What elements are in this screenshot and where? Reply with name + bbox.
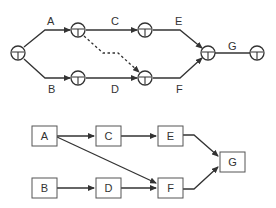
activity-node-d: D <box>96 178 121 198</box>
event-node-7 <box>250 46 264 60</box>
activity-arrow-e <box>153 30 202 48</box>
activity-label-d: D <box>111 83 119 95</box>
activity-node-label: F <box>167 182 174 194</box>
activity-label-c: C <box>111 15 119 27</box>
activity-label-f: F <box>176 83 183 95</box>
network-diagrams: A B C D E F G <box>0 0 276 208</box>
activity-node-label: D <box>105 182 113 194</box>
activity-node-b: B <box>32 178 57 198</box>
activity-node-a: A <box>32 126 57 146</box>
event-node-4 <box>138 23 152 37</box>
event-node-2 <box>71 23 85 37</box>
event-node-1 <box>11 46 25 60</box>
activity-node-label: G <box>228 156 237 168</box>
activity-node-label: C <box>105 130 113 142</box>
activity-node-label: B <box>41 182 48 194</box>
activity-node-label: A <box>41 130 49 142</box>
edge-e-g <box>183 135 218 156</box>
activity-label-a: A <box>47 15 55 27</box>
activity-label-e: E <box>175 15 182 27</box>
activity-node-c: C <box>96 126 121 146</box>
activity-label-g: G <box>228 40 237 52</box>
activity-arrow-b <box>24 59 70 78</box>
event-node-3 <box>71 71 85 85</box>
event-node-5 <box>138 71 152 85</box>
activity-arrow-f <box>153 58 202 78</box>
activity-node-label: E <box>167 130 174 142</box>
activity-on-arrow-diagram: A B C D E F G <box>11 15 264 95</box>
activity-arrow-a <box>24 30 70 47</box>
dummy-activity-arrow <box>84 36 139 72</box>
activity-node-e: E <box>158 126 183 146</box>
activity-node-f: F <box>158 178 183 198</box>
activity-on-node-diagram: A C E B D F G <box>32 126 245 198</box>
activity-node-g: G <box>220 152 245 172</box>
edge-f-g <box>183 167 218 189</box>
activity-label-b: B <box>48 83 55 95</box>
event-node-6 <box>201 46 215 60</box>
